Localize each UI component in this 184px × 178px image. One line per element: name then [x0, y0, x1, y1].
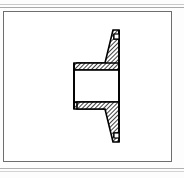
drawing-sheet-frame [3, 11, 172, 162]
drawing-projection: side sectional view [0, 0, 1, 1]
bottom-relief-notch [114, 133, 119, 138]
top-relief-notch [114, 34, 119, 39]
scan-artifact-top-label: scan edge band top [0, 0, 1, 1]
scan-artifact-line-top-inner [0, 7, 184, 8]
upper-bore-wall-hatched [74, 63, 119, 70]
scan-artifact-bottom-label: scan edge band bottom [0, 0, 1, 1]
lower-flange-and-web-hatched [77, 102, 119, 142]
feature-label-top-notch: small rectangular relief groove at top o… [0, 0, 1, 1]
drawing-symmetry-note: horizontal centerline, vertically symmet… [0, 0, 1, 1]
screenshot-canvas: Flanged hub cross-section full section s… [0, 0, 184, 178]
feature-label-taper-web: tapered web joining hub to flange rim, u… [0, 0, 1, 1]
scan-artifact-line-top-outer [0, 4, 184, 5]
central-bore-cavity [74, 70, 119, 102]
feature-label-bore: central unhatched through bore running h… [0, 0, 1, 1]
drawing-title: Flanged hub cross-section [0, 0, 1, 1]
section-view-drawing [4, 12, 171, 161]
drawing-view-type: full section [0, 0, 1, 1]
lower-section-body [77, 102, 119, 142]
sheet-frame-label: drawing border [0, 0, 1, 1]
feature-label-flange-plate: tall vertical plate on right side of sec… [0, 0, 1, 1]
feature-label-hub-boss: cylindrical boss projecting left from th… [0, 0, 1, 1]
scan-artifact-line-bottom-inner [0, 168, 184, 169]
scan-artifact-line-bottom-outer [0, 171, 184, 172]
feature-label-bottom-notch: small rectangular relief groove at botto… [0, 0, 1, 1]
